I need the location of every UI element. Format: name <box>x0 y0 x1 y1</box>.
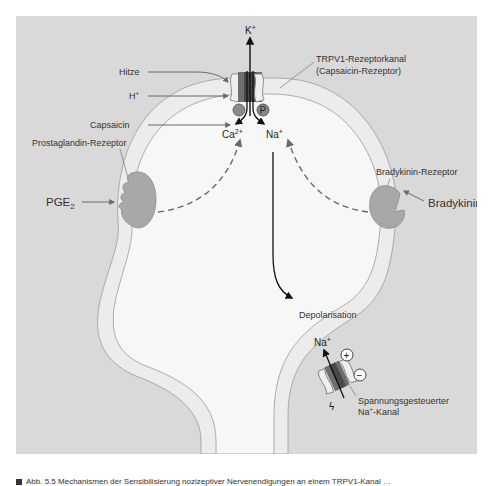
cytoplasm <box>113 94 381 454</box>
bradykinin-receptor-label: Bradykinin-Rezeptor <box>376 167 458 177</box>
figure-caption: Abb. 5.5 Mechanismen der Sensibilisierun… <box>16 477 486 486</box>
caption-text: Abb. 5.5 Mechanismen der Sensibilisierun… <box>26 477 391 486</box>
bradykinin-arrow <box>404 191 424 201</box>
phospho-label: P <box>260 105 267 116</box>
figure-panel: P K+ Ca2+ Na+ Hitze H+ Capsaicin TRPV1-R… <box>16 16 477 454</box>
capsaicin-binding-site <box>233 104 245 116</box>
bradykinin-label: Bradykinin <box>428 197 477 209</box>
capsaicin-label: Capsaicin <box>90 120 130 130</box>
plus-symbol: + <box>344 350 350 361</box>
prostaglandin-receptor-label: Prostaglandin-Rezeptor <box>32 138 127 148</box>
nav-label-line1: Spannungsgesteuerter <box>358 396 449 406</box>
na-ion-label-2: Na+ <box>314 336 331 348</box>
trpv1-label-line1: TRPV1-Rezeptorkanal <box>316 54 406 64</box>
pge2-label: PGE2 <box>46 196 75 211</box>
k-ion-label: K+ <box>245 24 256 36</box>
proton-label: H+ <box>129 90 140 101</box>
depolarisation-label: Depolarisation <box>299 310 357 320</box>
lightning-icon: ϟ <box>329 401 335 412</box>
caption-marker-icon <box>16 479 22 485</box>
nav-leader-line <box>350 386 356 396</box>
trpv1-label-line2: (Capsaicin-Rezeptor) <box>316 66 401 76</box>
minus-symbol: − <box>357 370 363 381</box>
heat-label: Hitze <box>119 67 140 77</box>
nociceptor-diagram: P K+ Ca2+ Na+ Hitze H+ Capsaicin TRPV1-R… <box>16 16 477 454</box>
nav-label-line2: Na+-Kanal <box>358 406 399 417</box>
